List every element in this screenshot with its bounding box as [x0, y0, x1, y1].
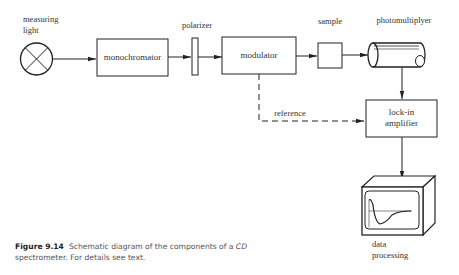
lockin-amplifier-node: lock-in amplifier [366, 100, 437, 137]
figure-caption: Figure 9.14Schematic diagram of the comp… [15, 241, 255, 263]
monochromator-label: monochromator [104, 52, 162, 62]
polarizer-node: polarizer [182, 20, 212, 75]
lockin-label-1: lock-in [389, 107, 415, 117]
photomultiplyer-label: photomultiplyer [377, 15, 432, 25]
measuring-light-node: measuring light [21, 14, 60, 75]
monitor-icon [362, 176, 435, 235]
data-processing-label-2: processing [372, 250, 409, 260]
polarizer-label: polarizer [182, 20, 212, 30]
measuring-light-label-1: measuring [23, 14, 59, 24]
caption-text-2: spectrometer. For details see text. [15, 253, 145, 262]
caption-italic-cd: CD [236, 242, 247, 251]
cd-spectrometer-diagram: measuring light monochromator polarizer … [0, 0, 459, 275]
sample-label: sample [318, 16, 342, 26]
lamp-cross-circle-icon [21, 43, 53, 75]
lockin-label-2: amplifier [385, 118, 418, 128]
cylinder-tube-icon [368, 43, 425, 67]
photomultiplyer-node: photomultiplyer [368, 15, 432, 67]
monochromator-node: monochromator [97, 39, 168, 76]
modulator-label: modulator [241, 50, 278, 60]
measuring-light-label-2: light [23, 25, 39, 35]
modulator-node: modulator [222, 37, 296, 74]
reference-label: reference [274, 108, 306, 118]
data-processing-node: data processing [362, 176, 435, 260]
data-processing-label-1: data [372, 239, 386, 249]
reference-edge: reference [259, 74, 364, 121]
caption-text-1: Schematic diagram of the components of a [69, 242, 236, 251]
sample-node: sample [318, 16, 342, 68]
figure-number: Figure 9.14 [15, 242, 64, 251]
